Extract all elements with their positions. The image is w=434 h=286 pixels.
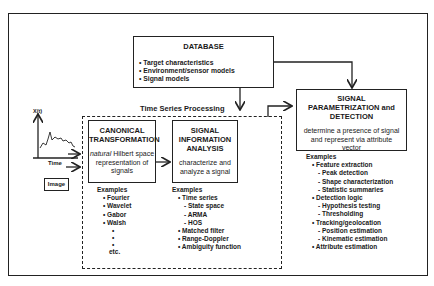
examples-header: Examples: [97, 186, 131, 194]
example-item: •: [97, 234, 131, 241]
example-item: • Walsh: [97, 219, 131, 227]
example-item: • Detection logic: [306, 194, 393, 202]
example-item: • Tracking/geolocation: [306, 219, 393, 227]
example-item: - Peak detection: [306, 169, 393, 177]
example-item: - State space: [172, 202, 241, 210]
analysis-box: SIGNAL INFORMATION ANALYSIS characterize…: [172, 120, 238, 183]
y-axis-label: X(t): [33, 108, 42, 114]
example-item: • Range-Doppler: [172, 235, 241, 243]
database-item: • Signal models: [139, 75, 273, 83]
database-item: • Target characteristics: [139, 59, 273, 67]
example-item: •: [97, 227, 131, 234]
canonical-desc-3: signals: [89, 167, 155, 176]
time-series-label: Time Series Processing: [140, 104, 225, 113]
canonical-examples: Examples • Fourier • Wavelet • Gabor • W…: [97, 186, 131, 256]
database-title: DATABASE: [134, 42, 273, 51]
analysis-desc-1: characterize and: [173, 159, 237, 168]
example-item: • Fourier: [97, 194, 131, 202]
detection-box: SIGNAL PARAMETRIZATION and DETECTION det…: [296, 89, 407, 151]
canonical-box: CANONICAL TRANSFORMATION natural Hilbert…: [88, 120, 156, 183]
image-input-box: Image: [44, 178, 69, 191]
example-item: - HOS: [172, 219, 241, 227]
example-item: • Wavelet: [97, 202, 131, 210]
example-item: etc.: [97, 248, 131, 256]
x-axis-label: Time: [48, 160, 62, 166]
canonical-title-1: CANONICAL: [89, 126, 155, 135]
example-item: • Ambiguity function: [172, 243, 241, 251]
example-item: • Matched filter: [172, 227, 241, 235]
detection-examples: Examples • Feature extraction - Peak det…: [306, 153, 393, 251]
example-item: •: [97, 241, 131, 248]
detection-desc-3: vector: [297, 144, 406, 153]
database-box: DATABASE • Target characteristics • Envi…: [133, 36, 274, 88]
detection-title-1: SIGNAL: [297, 94, 406, 103]
example-item: - Position estimation: [306, 227, 393, 235]
examples-header: Examples: [172, 186, 241, 194]
detection-desc-1: determine a presence of signal: [297, 127, 406, 136]
example-item: • Feature extraction: [306, 161, 393, 169]
examples-header: Examples: [306, 153, 393, 161]
canonical-desc-italic: natural: [90, 150, 111, 157]
example-item: - Shape characterization: [306, 178, 393, 186]
example-item: - ARMA: [172, 211, 241, 219]
example-item: • Time series: [172, 194, 241, 202]
analysis-desc-2: analyze a signal: [173, 168, 237, 177]
detection-title-2: PARAMETRIZATION and: [297, 103, 406, 112]
analysis-title-3: ANALYSIS: [173, 144, 237, 153]
example-item: - Statistic summaries: [306, 186, 393, 194]
canonical-desc-2: representation of: [89, 159, 155, 168]
example-item: - Thresholding: [306, 210, 393, 218]
detection-desc-2: and represent via attribute: [297, 136, 406, 145]
analysis-title-2: INFORMATION: [173, 135, 237, 144]
database-list: • Target characteristics • Environment/s…: [139, 59, 273, 84]
example-item: • Attribute estimation: [306, 243, 393, 251]
example-item: - Kinematic estimation: [306, 235, 393, 243]
example-item: - Hypothesis testing: [306, 202, 393, 210]
example-item: • Gabor: [97, 211, 131, 219]
image-label: Image: [48, 181, 65, 187]
analysis-title-1: SIGNAL: [173, 126, 237, 135]
database-item: • Environment/sensor models: [139, 67, 273, 75]
analysis-examples: Examples • Time series - State space - A…: [172, 186, 241, 252]
detection-title-3: DETECTION: [297, 112, 406, 121]
canonical-title-2: TRANSFORMATION: [89, 135, 155, 144]
canonical-desc-1: Hilbert space: [111, 150, 154, 157]
